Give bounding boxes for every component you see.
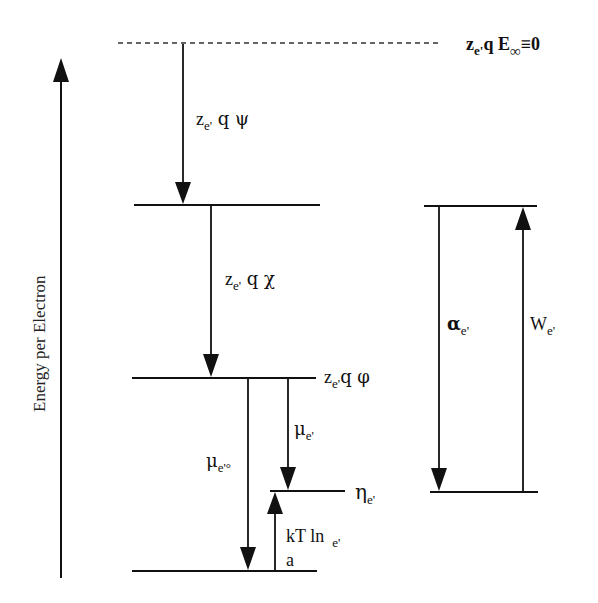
electrochemical-level-label: ηe': [355, 482, 375, 506]
chi-arrow-label: ze' q χ: [225, 270, 275, 292]
vacuum-level-label: ze'q E∞≡0: [466, 35, 540, 59]
energy-diagram-canvas: [0, 0, 598, 603]
arrow-kt-ln-a: [267, 492, 283, 570]
axis-arrowhead-icon: [53, 58, 69, 82]
alpha-arrow-label: αe': [447, 315, 469, 337]
mu-standard-arrow-label: μe'°: [206, 452, 231, 474]
arrow-psi: [175, 44, 191, 204]
energy-axis: [53, 58, 69, 578]
kt-ln-a-label: kT lne': [286, 527, 340, 549]
psi-arrow-label: ze' q ψ: [196, 110, 249, 132]
work-function-label: We': [530, 315, 555, 337]
energy-axis-label: Energy per Electron: [30, 275, 50, 412]
arrow-chi: [203, 206, 219, 377]
arrow-work-function: [515, 207, 531, 491]
kt-ln-a-below-label: a: [286, 551, 294, 569]
arrow-mu-standard: [240, 379, 256, 570]
mu-arrow-label: μe': [294, 420, 314, 442]
inner-potential-label: ze'q φ: [324, 368, 370, 390]
arrow-alpha: [431, 207, 447, 491]
